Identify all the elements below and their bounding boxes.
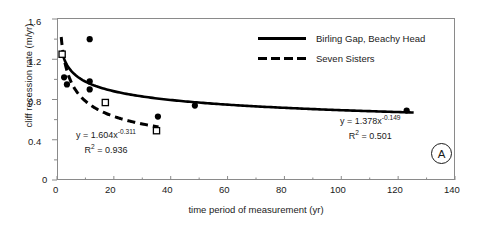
xtick-label: 140 bbox=[444, 184, 460, 195]
trend-line-seven-sisters bbox=[61, 37, 158, 127]
equation-exponent: -0.311 bbox=[118, 128, 136, 135]
data-point-open-square bbox=[59, 51, 65, 57]
legend-key-dashed-line bbox=[258, 53, 306, 63]
legend-item-birling-gap: Birling Gap, Beachy Head bbox=[258, 28, 448, 48]
data-point-filled-circle bbox=[87, 36, 93, 42]
data-point-filled-circle bbox=[61, 74, 67, 80]
annotation-seven-sisters-fit: y = 1.604x-0.311 R2 = 0.936 bbox=[76, 126, 136, 156]
equation-exponent: -0.149 bbox=[382, 114, 401, 121]
legend-item-seven-sisters: Seven Sisters bbox=[258, 48, 448, 68]
xtick-label: 120 bbox=[387, 184, 403, 195]
xtick-label: 0 bbox=[53, 184, 58, 195]
chart-figure: 1.6 1.2 0.8 0.4 0 0 20 40 60 80 100 120 … bbox=[0, 0, 488, 230]
data-point-open-square bbox=[153, 128, 159, 134]
xtick-label: 100 bbox=[330, 184, 346, 195]
r2-value: = 0.936 bbox=[97, 145, 127, 155]
data-point-filled-circle bbox=[64, 81, 70, 87]
data-point-filled-circle bbox=[404, 107, 410, 113]
legend-label: Birling Gap, Beachy Head bbox=[316, 33, 425, 44]
data-point-open-square bbox=[102, 99, 108, 105]
legend: Birling Gap, Beachy Head Seven Sisters bbox=[258, 28, 448, 68]
xtick-label: 40 bbox=[162, 184, 173, 195]
x-axis-label: time period of measurement (yr) bbox=[57, 204, 455, 215]
r2-exponent: 2 bbox=[355, 129, 359, 136]
legend-label: Seven Sisters bbox=[316, 53, 375, 64]
data-point-filled-circle bbox=[87, 78, 93, 84]
xtick-label: 20 bbox=[105, 184, 116, 195]
annotation-birling-gap-fit: y = 1.378x-0.149 R2 = 0.501 bbox=[340, 112, 400, 142]
xtick-label: 80 bbox=[276, 184, 287, 195]
data-point-filled-circle bbox=[155, 114, 161, 120]
equation-text: y = 1.378x bbox=[340, 116, 382, 126]
ytick-label: 0 bbox=[42, 174, 47, 185]
equation-text: y = 1.604x bbox=[76, 130, 118, 140]
data-point-filled-circle bbox=[192, 102, 198, 108]
r2-exponent: 2 bbox=[91, 143, 95, 150]
r2-value: = 0.501 bbox=[361, 131, 391, 141]
y-axis-label: cliff recession rate (m/yr) bbox=[23, 0, 34, 156]
legend-key-solid-line bbox=[258, 33, 306, 43]
panel-label: A bbox=[431, 143, 452, 164]
data-point-filled-circle bbox=[87, 86, 93, 92]
xtick-label: 60 bbox=[219, 184, 230, 195]
